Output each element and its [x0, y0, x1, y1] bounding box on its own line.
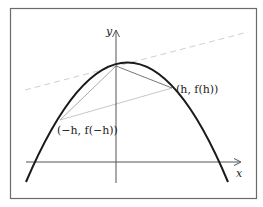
x-axis-label: x — [236, 167, 243, 180]
point-label-right: (h, f(h)) — [176, 83, 218, 96]
y-axis-label: y — [105, 25, 113, 38]
frame-border — [11, 9, 257, 199]
parabola-diagram: y x (h, f(h)) (−h, f(−h)) — [0, 0, 263, 207]
point-label-left: (−h, f(−h)) — [57, 124, 118, 137]
